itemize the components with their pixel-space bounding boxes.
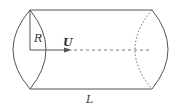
cylinder-diagram: R U L [0, 0, 180, 105]
velocity-label: U [63, 36, 74, 49]
radius-label: R [33, 32, 42, 45]
length-label: L [85, 93, 93, 105]
right-end-hidden-arc [135, 10, 152, 89]
left-end-outer-arc [13, 10, 30, 89]
right-end-outer-arc [152, 10, 168, 89]
